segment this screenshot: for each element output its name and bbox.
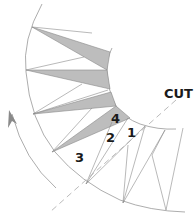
fold-line bbox=[26, 57, 84, 70]
folding-diagram: CUT 4 2 1 3 bbox=[0, 0, 196, 215]
step-2-label: 2 bbox=[106, 130, 115, 145]
direction-arrow-arc bbox=[12, 114, 56, 188]
cut-label: CUT bbox=[164, 86, 193, 101]
fold-line bbox=[166, 128, 183, 210]
shaded-wedge-1 bbox=[32, 27, 110, 70]
shaded-wedge-2 bbox=[26, 70, 110, 89]
step-3-label: 3 bbox=[75, 150, 84, 165]
shaded-wedge-3 bbox=[33, 92, 116, 114]
fold-line bbox=[152, 155, 166, 210]
fold-line bbox=[123, 130, 165, 203]
step-4-label: 4 bbox=[111, 111, 120, 126]
fold-line bbox=[152, 130, 165, 155]
fold-line bbox=[86, 126, 145, 184]
step-1-label: 1 bbox=[127, 125, 136, 140]
